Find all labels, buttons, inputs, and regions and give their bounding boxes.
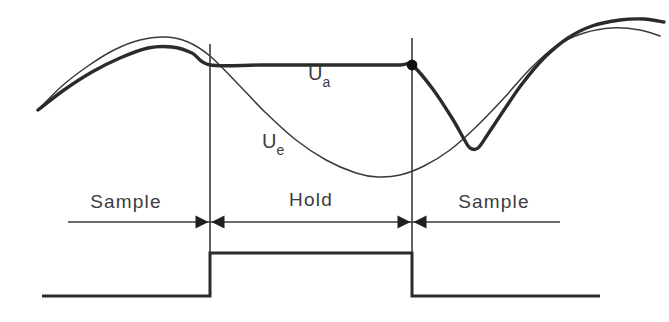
output-signal-label-base: U [308,62,322,84]
timing-axis [68,216,560,229]
arrow-head-right-of-hold-start [212,216,225,229]
phase-label-sample-0: Sample [90,191,162,212]
sample-instant-dot [407,60,418,71]
phase-labels: SampleHoldSample [90,189,530,212]
arrow-head-right-of-hold-end [414,216,427,229]
arrow-head-left-of-hold-end [398,216,411,229]
sample-hold-diagram: Ua Ue SampleHoldSample [0,0,669,322]
phase-label-hold-1: Hold [289,189,333,210]
output-signal-label-subscript: a [322,74,330,90]
input-signal-label-base: U [262,130,276,152]
control-pulse-waveform [42,253,600,296]
input-signal-label-subscript: e [276,142,284,158]
input-signal-curve [38,28,660,177]
output-signal-curve [38,19,664,150]
arrow-head-left-of-hold-start [196,216,209,229]
input-signal-label: Ue [262,130,284,158]
phase-label-sample-2: Sample [458,191,530,212]
waveform-canvas: Ua Ue SampleHoldSample [0,0,669,322]
